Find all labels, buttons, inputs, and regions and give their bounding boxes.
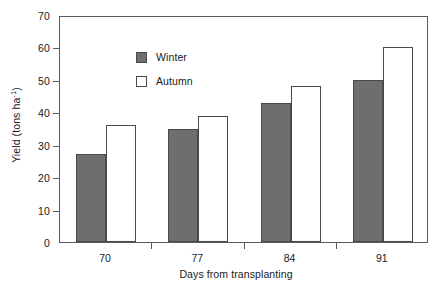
legend-label-autumn: Autumn (156, 75, 193, 87)
y-axis-tick-label: 50 (10, 76, 50, 86)
x-axis-tick (336, 243, 337, 249)
x-axis-label: Days from transplanting (60, 268, 412, 280)
legend-item-winter: Winter (136, 47, 193, 67)
y-axis-tick-label: 40 (10, 108, 50, 118)
bar-autumn-70 (106, 125, 136, 242)
plot-area: Winter Autumn (59, 16, 428, 243)
y-axis-tick-label: 10 (10, 206, 50, 216)
x-axis-tick-label: 70 (80, 251, 130, 265)
x-axis-tick-label: 84 (265, 251, 315, 265)
x-axis-tick-label: 91 (357, 251, 407, 265)
y-axis-tick-label: 0 (10, 238, 50, 248)
bar-autumn-91 (383, 47, 413, 242)
bar-autumn-77 (198, 116, 228, 242)
x-axis-tick-label: 77 (172, 251, 222, 265)
legend-swatch-winter-icon (136, 52, 147, 63)
legend-item-autumn: Autumn (136, 71, 193, 91)
y-axis-tick-label: 20 (10, 173, 50, 183)
x-axis-tick (244, 243, 245, 249)
y-axis-tick-label: 70 (10, 11, 50, 21)
y-axis-label-exponent: -1 (9, 91, 18, 98)
chart-figure: Yield (tons ha-1) Days from transplantin… (0, 0, 439, 294)
chart-legend: Winter Autumn (136, 47, 193, 95)
bar-winter-77 (168, 129, 198, 243)
bar-winter-84 (261, 103, 291, 242)
x-axis-tick (151, 243, 152, 249)
y-axis-tick-label: 30 (10, 141, 50, 151)
bar-autumn-84 (291, 86, 321, 242)
y-axis-label-suffix: ) (10, 87, 22, 91)
legend-label-winter: Winter (156, 51, 187, 63)
legend-swatch-autumn-icon (136, 76, 147, 87)
y-axis-tick-label: 60 (10, 43, 50, 53)
bar-winter-70 (76, 154, 106, 242)
bar-winter-91 (353, 80, 383, 242)
